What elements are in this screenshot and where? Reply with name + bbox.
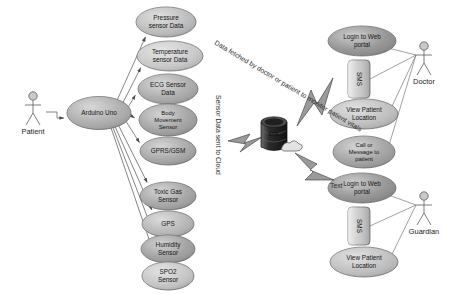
connector-doctor-to-doc-call: [389, 55, 416, 144]
note-text: Text: [330, 182, 343, 189]
use-case-label-arduino-uno: Arduino Uno: [81, 109, 117, 116]
connector-hub-to-gprs: [126, 121, 140, 143]
note-sensor-cloud: Sensor Data sent to Cloud: [215, 95, 222, 175]
use-case-label-temperature: Temperaturesensor Data: [152, 48, 188, 62]
use-case-diagram: PatientDoctorGuardian Arduino UnoPressur…: [0, 0, 461, 295]
connector-doctor-to-doc-login: [390, 49, 416, 56]
actor-label-doctor: Doctor: [413, 77, 435, 86]
use-case-label-humidity: HumiditySensor: [156, 241, 182, 255]
connector-hub-to-temperature: [123, 68, 141, 104]
actor-label-patient: Patient: [21, 127, 44, 136]
use-case-label-grd-sms: SMS: [356, 219, 363, 233]
connector-guardian-to-grd-sms: [370, 205, 416, 226]
lightning-bolt-text-alert: [295, 153, 334, 180]
patient-hub-connector: [46, 112, 64, 118]
use-case-label-toxicgas: Toxic GasSensor: [154, 188, 182, 202]
use-case-label-spo2: SPO2Sensor: [158, 268, 179, 282]
use-case-label-doc-sms: SMS: [356, 72, 363, 86]
note-group: Sensor Data sent to CloudData fetched by…: [213, 39, 364, 189]
actor-patient[interactable]: Patient: [21, 92, 44, 136]
diagram-canvas: PatientDoctorGuardian Arduino UnoPressur…: [0, 0, 461, 295]
connector-doctor-to-doc-sms: [370, 55, 416, 79]
actor-doctor[interactable]: Doctor: [413, 42, 435, 86]
connector-guardian-to-grd-login: [390, 196, 416, 206]
actor-guardian[interactable]: Guardian: [409, 192, 439, 236]
actor-label-guardian: Guardian: [409, 227, 439, 236]
lightning-bolt-to-database: [228, 134, 262, 152]
use-case-label-gps: GPS: [161, 220, 175, 227]
connector-hub-to-ecg: [128, 95, 136, 108]
sql-database-icon: SQL: [261, 117, 302, 151]
use-case-label-pressure: Pressuresensor Data: [149, 14, 184, 28]
use-case-label-gprs: GPRS/GSM: [151, 147, 185, 154]
database-label: SQL: [268, 131, 280, 137]
